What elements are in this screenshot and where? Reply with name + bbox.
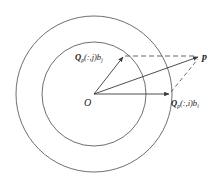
vector-diagram: O p Qp(:,j)bj Qp(:,i)bi (0, 0, 222, 185)
qi-label: Qp(:,i)bi (171, 98, 199, 109)
origin-label: O (84, 97, 91, 108)
qj-label: Qp(:,j)bj (75, 52, 103, 63)
dashed-line-qi-to-p (171, 59, 198, 92)
point-p-label: p (201, 51, 207, 62)
